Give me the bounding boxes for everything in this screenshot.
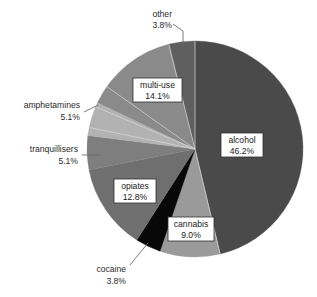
callout-multi-use: multi-use 14.1%	[133, 78, 182, 102]
label-amphetamines-percent: 5.1%	[60, 112, 80, 122]
label-other-percent: 3.8%	[152, 20, 172, 30]
label-other: other 3.8%	[152, 9, 172, 30]
callout-cannabis-name: cannabis	[174, 219, 208, 229]
label-tranquillisers-percent: 5.1%	[58, 156, 78, 166]
callout-alcohol: alcohol 46.2%	[221, 133, 263, 157]
callout-opiates-percent: 12.8%	[123, 192, 148, 202]
label-tranquillisers-name: tranquillisers	[30, 144, 78, 154]
callout-alcohol-name: alcohol	[228, 135, 255, 145]
callout-multi-use-name: multi-use	[140, 80, 175, 90]
callout-cannabis: cannabis 9.0%	[168, 217, 214, 241]
callout-multi-use-percent: 14.1%	[145, 91, 170, 101]
label-other-name: other	[152, 9, 172, 19]
callout-cannabis-percent: 9.0%	[181, 230, 201, 240]
callout-opiates: opiates 12.8%	[114, 179, 156, 203]
pie-chart-canvas: other 3.8% amphetamines 5.1% tranquillis…	[0, 0, 317, 297]
callout-opiates-name: opiates	[121, 181, 149, 191]
pie-chart: other 3.8% amphetamines 5.1% tranquillis…	[0, 0, 317, 297]
label-amphetamines-name: amphetamines	[24, 100, 80, 110]
label-cocaine-name: cocaine	[96, 264, 126, 274]
label-cocaine-percent: 3.8%	[106, 276, 126, 286]
callout-alcohol-percent: 46.2%	[230, 146, 255, 156]
